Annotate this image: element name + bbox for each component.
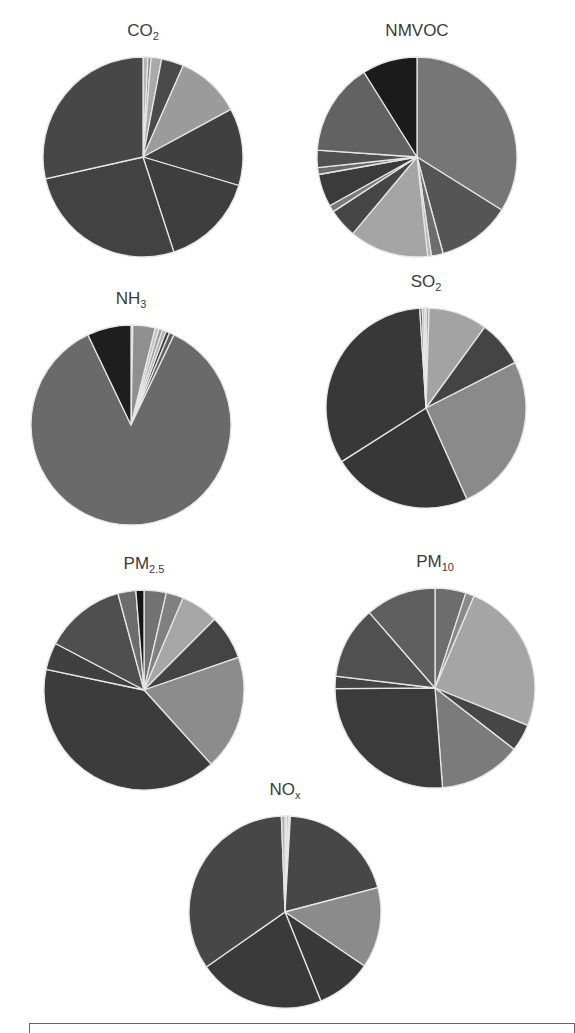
- pie-title-nox: NOx: [205, 780, 365, 800]
- pie-chart-pm2-5: [42, 588, 246, 792]
- pie-title-pm2-5: PM2.5: [64, 554, 224, 574]
- pie-title-pm10: PM10: [355, 552, 515, 572]
- pie-chart-so2: [324, 306, 528, 510]
- pie-title-subscript: 2.5: [149, 563, 164, 575]
- legend-box: [29, 1023, 575, 1033]
- pie-chart-co2: [41, 55, 245, 259]
- pie-title-subscript: 3: [140, 298, 146, 310]
- pie-slice: [43, 57, 143, 179]
- pie-title-so2: SO2: [346, 272, 506, 292]
- pie-title-nmvoc: NMVOC: [337, 21, 497, 41]
- pie-title-main: CO: [127, 21, 153, 40]
- pie-title-subscript: 10: [442, 561, 454, 573]
- pie-chart-pm10: [333, 586, 537, 790]
- pie-title-main: PM: [124, 554, 150, 573]
- pie-title-subscript: 2: [435, 281, 441, 293]
- pie-title-main: NMVOC: [385, 21, 448, 40]
- pie-title-main: NH: [116, 289, 141, 308]
- pie-title-main: SO: [411, 272, 436, 291]
- pie-title-nh3: NH3: [51, 289, 211, 309]
- pie-chart-nh3: [29, 323, 233, 527]
- pie-slice: [335, 688, 443, 788]
- pie-chart-nmvoc: [315, 55, 519, 259]
- pie-title-main: NO: [270, 780, 296, 799]
- pie-title-subscript: x: [295, 789, 301, 801]
- pie-title-subscript: 2: [153, 30, 159, 42]
- pie-title-co2: CO2: [63, 21, 223, 41]
- pie-chart-nox: [187, 814, 383, 1010]
- pie-title-main: PM: [416, 552, 442, 571]
